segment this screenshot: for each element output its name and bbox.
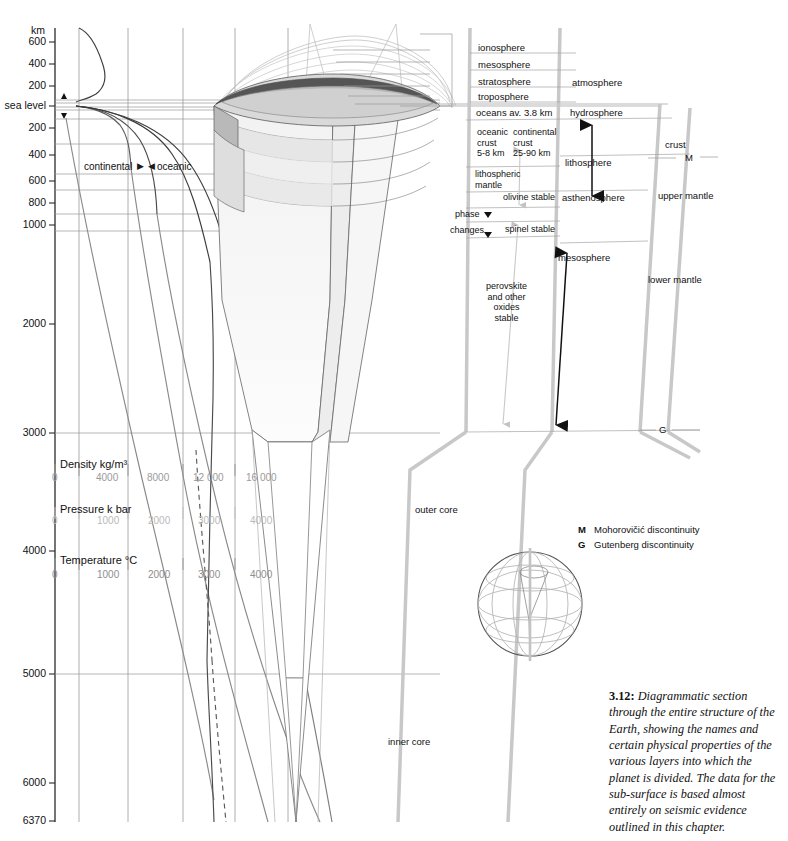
phase-label: phase: [455, 209, 480, 220]
pressure-tick-3000: 3000: [198, 515, 220, 527]
continental-label: continental: [84, 161, 132, 173]
lower-mantle-label: lower mantle: [648, 274, 702, 285]
density-tick-0: 0: [52, 472, 58, 484]
temperature-tick-3000: 3000: [198, 569, 220, 581]
temperature-tick-0: 0: [52, 569, 58, 581]
perovskite-stable-label: perovskite and other oxides stable: [486, 281, 527, 323]
upper-mantle-label: upper mantle: [658, 190, 713, 201]
figure-canvas: km 600 400 200 sea level 200 400 600 800…: [0, 0, 788, 841]
density-tick-4000: 4000: [96, 472, 118, 484]
depth-tick-2000: 2000: [8, 317, 46, 329]
oceanic-arrow-icon: ◀: [148, 161, 155, 172]
depth-tick-400: 400: [14, 148, 46, 160]
pressure-tick-0: 0: [52, 515, 58, 527]
oceanic-crust-block: oceanic crust 5-8 km: [477, 127, 508, 159]
continental-arrow-icon: ▶: [137, 161, 144, 172]
lithosphere-label: lithosphere: [565, 157, 611, 168]
range-arrows: [556, 125, 592, 425]
depth-tick-600-above: 600: [14, 35, 46, 47]
depth-tick-600: 600: [14, 174, 46, 186]
globe-inset: [478, 548, 582, 661]
figure-caption: 3.12: Diagrammatic section through the e…: [609, 688, 785, 835]
temperature-tick-4000: 4000: [250, 569, 272, 581]
pressure-tick-2000: 2000: [148, 515, 170, 527]
pressure-tick-1000: 1000: [97, 515, 119, 527]
figure-number: 3.12:: [609, 689, 635, 703]
key-gutenberg-text: Gutenberg discontinuity: [594, 539, 694, 550]
layer-oceans: oceans av. 3.8 km: [476, 107, 552, 118]
key-moho-text: Mohorovičić discontinuity: [594, 524, 700, 535]
depth-tick-6000: 6000: [8, 776, 46, 788]
key-moho-symbol: M: [578, 524, 586, 535]
depth-tick-4000: 4000: [8, 544, 46, 556]
oceanic-label: oceanic: [157, 161, 191, 173]
hydrosphere-label: hydrosphere: [570, 107, 623, 118]
pressure-tick-4000: 4000: [250, 515, 272, 527]
depth-tick-400-above: 400: [14, 57, 46, 69]
layer-ionosphere: ionosphere: [478, 42, 525, 53]
continental-crust-block: continental crust 25-90 km: [513, 127, 557, 159]
figure-caption-text: Diagrammatic section through the entire …: [609, 689, 775, 834]
temperature-scale-title: Temperature °C: [60, 554, 137, 567]
olivine-stable-label: olivine stable: [503, 192, 555, 203]
key-gutenberg-symbol: G: [578, 539, 585, 550]
density-tick-8000: 8000: [147, 472, 169, 484]
temperature-tick-2000: 2000: [148, 569, 170, 581]
lithospheric-mantle-label: lithospheric mantle: [475, 169, 521, 190]
depth-tick-200-above: 200: [14, 79, 46, 91]
changes-label: changes: [450, 225, 484, 236]
layer-stratosphere: stratosphere: [478, 76, 531, 87]
pressure-scale-title: Pressure k bar: [60, 503, 132, 516]
inner-core-label: inner core: [388, 736, 430, 747]
depth-tick-6370: 6370: [8, 814, 46, 826]
depth-axis: [49, 28, 67, 822]
density-scale-title: Density kg/m³: [60, 458, 127, 471]
depth-tick-800: 800: [14, 196, 46, 208]
layer-mesosphere: mesosphere: [478, 59, 530, 70]
outer-core-label: outer core: [415, 504, 458, 515]
depth-tick-1000: 1000: [8, 218, 46, 230]
layer-troposphere: troposphere: [478, 91, 529, 102]
density-tick-16000: 16 000: [246, 472, 277, 484]
mesosphere-inner-label: mesosphere: [558, 252, 610, 263]
earth-wedge-3d: [214, 24, 456, 822]
depth-tick-3000: 3000: [8, 426, 46, 438]
temperature-tick-1000: 1000: [97, 569, 119, 581]
depth-tick-5000: 5000: [8, 667, 46, 679]
gutenberg-marker: G: [659, 424, 666, 435]
phase-change-markers: [484, 212, 492, 238]
crust-label: crust: [665, 139, 686, 150]
depth-tick-200: 200: [14, 121, 46, 133]
moho-marker: M: [685, 152, 693, 163]
density-tick-12000: 12 000: [193, 472, 224, 484]
sea-level-label: sea level: [0, 99, 46, 111]
asthenosphere-label: asthenosphere: [562, 192, 625, 203]
spinel-stable-label: spinel stable: [505, 224, 555, 235]
atmosphere-label: atmosphere: [572, 77, 622, 88]
